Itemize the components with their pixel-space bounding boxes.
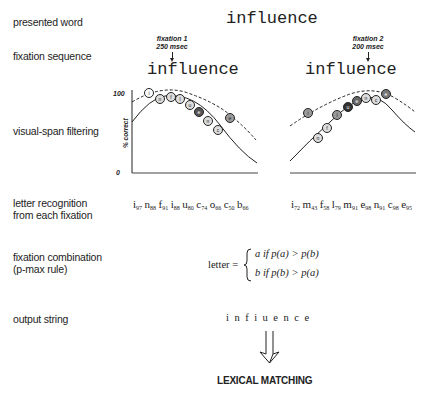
- formula-case-1: a if p(a) > p(b): [255, 248, 319, 259]
- row-label-presented-word: presented word: [13, 16, 83, 28]
- rec1-letter: b: [237, 198, 243, 210]
- letter-recognition-label-2: from each fixation: [13, 209, 92, 221]
- rec2-letter: m: [343, 198, 352, 210]
- rec1-prob: 74: [201, 205, 207, 211]
- svg-text:0: 0: [116, 169, 120, 176]
- svg-text:e: e: [356, 98, 359, 104]
- rec2-prob: 79: [335, 205, 341, 211]
- fixation-2-duration: 200 msec: [346, 43, 390, 51]
- formula-lhs: letter =: [208, 259, 238, 270]
- rec2-prob: 95: [406, 205, 412, 211]
- row-label-fixation-combination: fixation combination (p-max rule): [13, 251, 102, 275]
- svg-text:i: i: [148, 90, 149, 96]
- fixation-2-label: fixation 2: [346, 35, 390, 43]
- rec1-letter: u: [182, 198, 188, 210]
- fixation-1-label: fixation 1: [150, 35, 194, 43]
- svg-text:e: e: [229, 115, 232, 121]
- svg-text:e: e: [198, 109, 201, 115]
- letter-recognition-label-1: letter recognition: [13, 197, 92, 209]
- double-arrow-down-icon: [258, 330, 282, 366]
- fixation-combination-label-2: (p-max rule): [13, 263, 102, 275]
- svg-text:100: 100: [113, 90, 125, 97]
- row-label-letter-recognition: letter recognition from each fixation: [13, 197, 92, 221]
- svg-text:n: n: [207, 118, 210, 124]
- fixation-1-note: fixation 1 250 msec: [150, 35, 194, 50]
- rec1-prob: 50: [229, 205, 235, 211]
- rec2-prob: 91: [379, 205, 385, 211]
- rec1-prob: 66: [243, 205, 249, 211]
- formula-case-2: b if p(b) > p(a): [255, 267, 319, 278]
- formula-brace-icon: [242, 248, 254, 282]
- fixation-2-arrow-icon: [368, 52, 369, 59]
- svg-text:u: u: [347, 104, 350, 110]
- svg-text:l: l: [336, 112, 337, 118]
- rec1-letter: c: [224, 198, 229, 210]
- lexical-matching-label: LEXICAL MATCHING: [217, 375, 312, 386]
- svg-text:n: n: [159, 96, 162, 102]
- svg-text:u: u: [189, 102, 192, 108]
- fixation-1-word: influence: [147, 60, 239, 79]
- fixation-combination-label-1: fixation combination: [13, 251, 102, 263]
- rec1-prob: 91: [162, 205, 168, 211]
- fixation-2-note: fixation 2 200 msec: [346, 35, 390, 50]
- svg-text:n: n: [365, 95, 368, 101]
- rec2-prob: 91: [352, 205, 358, 211]
- svg-text:e: e: [385, 91, 388, 97]
- fixation-1-arrow-icon: [172, 52, 173, 59]
- rec1-prob: 88: [174, 205, 180, 211]
- rec2-prob: 58: [323, 205, 329, 211]
- svg-text:% correct: % correct: [122, 118, 129, 148]
- rec2-prob: 72: [294, 205, 300, 211]
- rec1-prob: 97: [136, 205, 142, 211]
- rec2-letter: m: [303, 198, 312, 210]
- row-label-output-string: output string: [13, 313, 68, 325]
- rec2-letter: c: [388, 198, 393, 210]
- fixation-2-recognition: i72m43f58l79m91e98n91c98e95: [291, 198, 415, 211]
- fixation-2-word: influence: [305, 60, 397, 79]
- visual-span-charts: 100 0 % correct i n f l u e n c e i n f …: [0, 80, 429, 200]
- fixation-1-duration: 250 msec: [150, 43, 194, 51]
- output-string: infiuence: [226, 312, 315, 323]
- presented-word: influence: [226, 9, 318, 28]
- rec1-prob: 80: [188, 205, 194, 211]
- rec1-prob: 88: [150, 205, 156, 211]
- rec2-prob: 43: [311, 205, 317, 211]
- svg-text:i: i: [307, 110, 308, 116]
- svg-text:n: n: [317, 135, 320, 141]
- rec2-prob: 98: [365, 205, 371, 211]
- svg-text:l: l: [179, 96, 180, 102]
- rec1-prob: 66: [215, 205, 221, 211]
- rec2-prob: 98: [393, 205, 399, 211]
- row-label-fixation-sequence: fixation sequence: [13, 50, 91, 62]
- fixation-1-recognition: i97n88f91i88u80c74o66c50b66: [133, 198, 251, 211]
